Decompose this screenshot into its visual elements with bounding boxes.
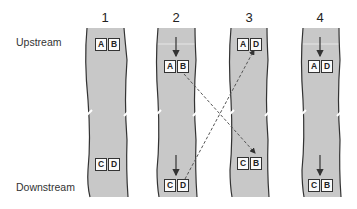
box-col1-bottom-1: C: [95, 158, 107, 171]
box-col2-top-2: B: [177, 60, 189, 73]
river-4: [302, 28, 342, 197]
river-1: [86, 28, 128, 197]
box-col2-bottom-1: C: [164, 179, 176, 192]
box-col4-bottom-1: C: [308, 179, 320, 192]
river-2: [157, 28, 198, 197]
box-col1-top-2: B: [108, 38, 120, 51]
box-col4-top-2: D: [321, 60, 333, 73]
box-col1-top-1: A: [95, 38, 107, 51]
box-col3-top-1: A: [237, 38, 249, 51]
box-col3-bottom-2: B: [250, 157, 262, 170]
river-3: [230, 28, 270, 197]
box-col2-bottom-2: D: [177, 179, 189, 192]
box-col3-bottom-1: C: [237, 157, 249, 170]
stream-diagram: [0, 0, 357, 209]
box-col2-top-1: A: [164, 60, 176, 73]
box-col4-top-1: A: [308, 60, 320, 73]
box-col4-bottom-2: B: [321, 179, 333, 192]
box-col3-top-2: D: [250, 38, 262, 51]
box-col1-bottom-2: D: [108, 158, 120, 171]
